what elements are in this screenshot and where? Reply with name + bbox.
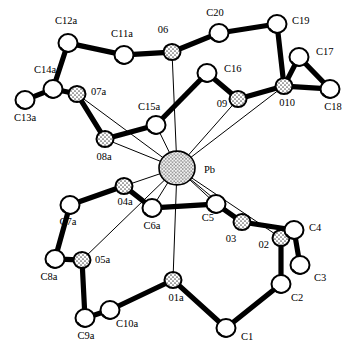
- label-C19: C19: [292, 15, 310, 26]
- atom-C5[interactable]: [207, 195, 226, 213]
- atom-C16[interactable]: [198, 64, 217, 82]
- coordination-bond-Pb-O4a: [131, 173, 161, 183]
- atom-O3[interactable]: [234, 214, 251, 230]
- atom-O7a[interactable]: [69, 86, 86, 102]
- coordination-bond-Pb-O1a: [173, 185, 176, 273]
- bond-O3-C4: [247, 223, 289, 229]
- label-C7a: C7a: [60, 216, 77, 227]
- atom-C17[interactable]: [290, 48, 309, 66]
- bond-O5a-C9a: [82, 265, 84, 313]
- label-C10a: C10a: [116, 318, 139, 329]
- bond-C12a-C14a: [55, 48, 67, 84]
- atom-C20[interactable]: [210, 24, 229, 42]
- ellipsoid-O9: [230, 91, 247, 107]
- label-O7a: 07a: [91, 86, 107, 97]
- label-O2: 02: [259, 239, 270, 250]
- atom-C10a[interactable]: [101, 301, 120, 319]
- atom-C7a[interactable]: [61, 196, 80, 214]
- label-O5a: 05a: [95, 254, 111, 265]
- atom-O9[interactable]: [230, 91, 247, 107]
- label-C8a: C8a: [41, 271, 58, 282]
- bond-C1-O1a: [176, 283, 222, 324]
- atom-C19[interactable]: [268, 15, 287, 33]
- bond-C10a-O1a: [115, 282, 169, 308]
- ellipsoid-O1a: [165, 272, 182, 288]
- bond-O9-O10: [242, 87, 279, 97]
- atom-C18[interactable]: [321, 80, 340, 98]
- label-O1a: 01a: [168, 292, 184, 303]
- label-C20: C20: [206, 7, 224, 18]
- atom-C14a[interactable]: [44, 80, 63, 98]
- atom-layer: [16, 15, 340, 337]
- label-C9a: C9a: [78, 330, 95, 341]
- atom-C3[interactable]: [291, 256, 310, 274]
- atom-C11a[interactable]: [115, 46, 134, 64]
- atom-O4a[interactable]: [116, 178, 133, 194]
- bond-C11a-O6: [129, 52, 167, 54]
- bond-C6a-C5: [157, 204, 211, 207]
- bond-C17-C18: [303, 61, 327, 85]
- molecule-canvas: Pb0607a08a0901001a020304a05aC1C2C3C4C5C6…: [0, 0, 360, 356]
- label-O3: 03: [226, 233, 237, 244]
- atom-O6[interactable]: [164, 44, 181, 60]
- coordination-bond-Pb-C6a: [157, 182, 169, 201]
- atom-C4[interactable]: [285, 221, 304, 239]
- label-C5: C5: [202, 212, 214, 223]
- coordination-bond-Pb-C5: [189, 179, 209, 198]
- label-C3: C3: [314, 272, 326, 283]
- ellipsoid-O6: [164, 44, 181, 60]
- atom-O5a[interactable]: [74, 252, 91, 268]
- atom-C15a[interactable]: [147, 116, 166, 134]
- coordination-bond-Pb-O8a: [112, 142, 161, 162]
- bond-O7a-O8a: [79, 98, 102, 135]
- label-O8a: 08a: [96, 151, 112, 162]
- label-C17: C17: [316, 46, 334, 57]
- atom-O8a[interactable]: [97, 131, 114, 147]
- label-O10: 010: [279, 97, 295, 108]
- atom-C8a[interactable]: [46, 250, 65, 268]
- label-C13a: C13a: [14, 112, 37, 123]
- bond-C20-C19: [224, 25, 272, 32]
- bond-O8a-C15a: [110, 126, 151, 137]
- label-C18: C18: [324, 101, 342, 112]
- label-O9: 09: [217, 98, 228, 109]
- bond-O6-C20: [176, 35, 214, 50]
- bond-O10-C18: [289, 86, 325, 88]
- label-C1: C1: [241, 331, 253, 342]
- ellipsoid-O3: [234, 214, 251, 230]
- atom-C1[interactable]: [217, 319, 236, 337]
- atom-C13a[interactable]: [16, 91, 35, 109]
- atom-Pb[interactable]: [159, 151, 195, 185]
- ortep-structure-figure: Pb0607a08a0901001a020304a05aC1C2C3C4C5C6…: [0, 0, 360, 356]
- label-C4: C4: [309, 222, 322, 233]
- ellipsoid-O10: [276, 78, 293, 94]
- bond-O4a-C7a: [75, 188, 120, 204]
- label-C16: C16: [224, 63, 242, 74]
- atom-O1a[interactable]: [165, 272, 182, 288]
- coordination-bond-Pb-C15a: [160, 133, 170, 153]
- label-C6a: C6a: [144, 220, 161, 231]
- label-C11a: C11a: [111, 28, 133, 39]
- bond-C12a-C11a: [73, 44, 119, 54]
- label-C14a: C14a: [34, 64, 57, 75]
- ellipsoid-Pb: [159, 151, 195, 185]
- label-C12a: C12a: [55, 15, 78, 26]
- ellipsoid-O8a: [97, 131, 114, 147]
- label-O4a: 04a: [117, 196, 133, 207]
- atom-C6a[interactable]: [143, 199, 162, 217]
- label-C2: C2: [291, 292, 303, 303]
- atom-C9a[interactable]: [76, 309, 95, 327]
- label-O6: 06: [158, 24, 169, 35]
- label-C15a: C15a: [138, 101, 161, 112]
- ellipsoid-O7a: [69, 86, 86, 102]
- atom-C2[interactable]: [272, 275, 291, 293]
- ellipsoid-O4a: [116, 178, 133, 194]
- bond-C15a-C16: [160, 77, 204, 122]
- bond-C2-C1: [230, 287, 277, 324]
- atom-C12a[interactable]: [59, 34, 78, 52]
- atom-O10[interactable]: [276, 78, 293, 94]
- label-Pb: Pb: [204, 164, 215, 175]
- ellipsoid-O5a: [74, 252, 91, 268]
- bond-C19-O10: [278, 29, 284, 81]
